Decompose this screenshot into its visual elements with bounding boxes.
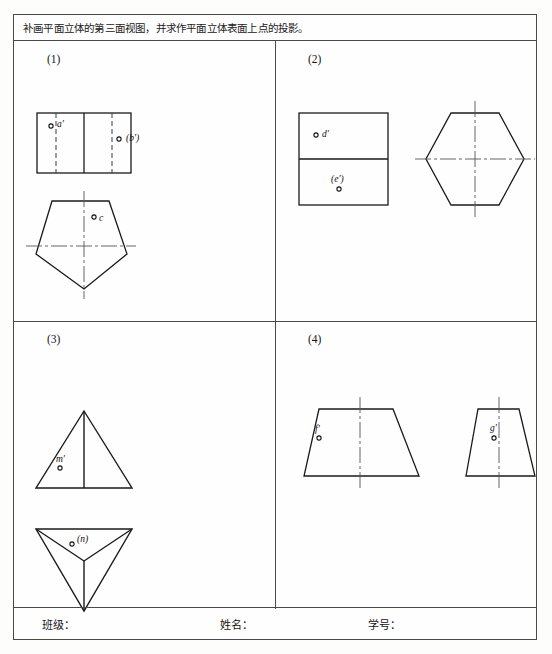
- point-label-b-prime: (b'): [126, 133, 139, 144]
- problem-cell-2[interactable]: (2) d' (e'): [275, 41, 536, 321]
- student-id-field-label[interactable]: 学号：: [368, 616, 401, 632]
- front-view-rectangle-1: a' (b'): [37, 113, 139, 173]
- point-label-c: c: [99, 213, 104, 223]
- point-marker-m-prime: [58, 466, 62, 470]
- worksheet-frame: 补画平面立体的第三面视图，并求作平面立体表面上点的投影。 (1) a': [13, 14, 537, 640]
- footer-bar: 班级： 姓名： 学号：: [14, 607, 536, 639]
- point-label-d-prime: d': [322, 129, 330, 139]
- point-marker-e-prime: [337, 187, 341, 191]
- problem-4-drawing: f' g': [275, 321, 536, 601]
- side-view-hexagon-2: [415, 101, 535, 217]
- top-view-inverted-triangle-3: (n): [36, 529, 132, 611]
- point-label-m-prime: m': [56, 454, 66, 464]
- front-view-trapezoid-4: f': [304, 397, 419, 489]
- point-marker-d-prime: [314, 133, 318, 137]
- problem-2-drawing: d' (e'): [275, 41, 536, 321]
- point-label-e-prime: (e'): [331, 174, 344, 185]
- point-marker-b-prime: [117, 137, 121, 141]
- name-field-label[interactable]: 姓名：: [220, 616, 253, 632]
- class-field-label[interactable]: 班级：: [42, 616, 75, 632]
- front-view-triangle-3: m': [36, 411, 132, 488]
- side-view-trapezoid-4: g': [466, 397, 535, 489]
- point-label-f-prime: f': [315, 424, 321, 434]
- trapezoid-outline-wide: [304, 409, 419, 476]
- point-marker-n: [70, 542, 74, 546]
- point-label-n: (n): [77, 534, 88, 545]
- pentagon-outline: [36, 201, 127, 289]
- trapezoid-outline-narrow: [466, 409, 535, 476]
- top-view-pentagon-1: c: [26, 191, 136, 299]
- problem-1-drawing: a' (b') c: [14, 41, 275, 321]
- point-marker-a-prime: [49, 124, 53, 128]
- pyramid-edge-right: [84, 529, 132, 561]
- worksheet-title: 补画平面立体的第三面视图，并求作平面立体表面上点的投影。: [14, 20, 309, 35]
- point-label-g-prime: g': [490, 423, 498, 433]
- point-label-a-prime: a': [57, 119, 65, 129]
- worksheet-page: 补画平面立体的第三面视图，并求作平面立体表面上点的投影。 (1) a': [0, 0, 552, 654]
- front-view-rectangle-2: d' (e'): [299, 113, 388, 205]
- problem-grid: (1) a' (b'): [14, 41, 536, 609]
- problem-cell-4[interactable]: (4) f' g': [275, 321, 536, 601]
- point-marker-f-prime: [317, 436, 321, 440]
- problem-3-drawing: m' (n): [14, 321, 275, 601]
- title-bar: 补画平面立体的第三面视图，并求作平面立体表面上点的投影。: [14, 15, 536, 41]
- point-marker-c: [92, 215, 96, 219]
- problem-cell-3[interactable]: (3) m' (: [14, 321, 275, 601]
- problem-cell-1[interactable]: (1) a' (b'): [14, 41, 275, 321]
- point-marker-g-prime: [492, 436, 496, 440]
